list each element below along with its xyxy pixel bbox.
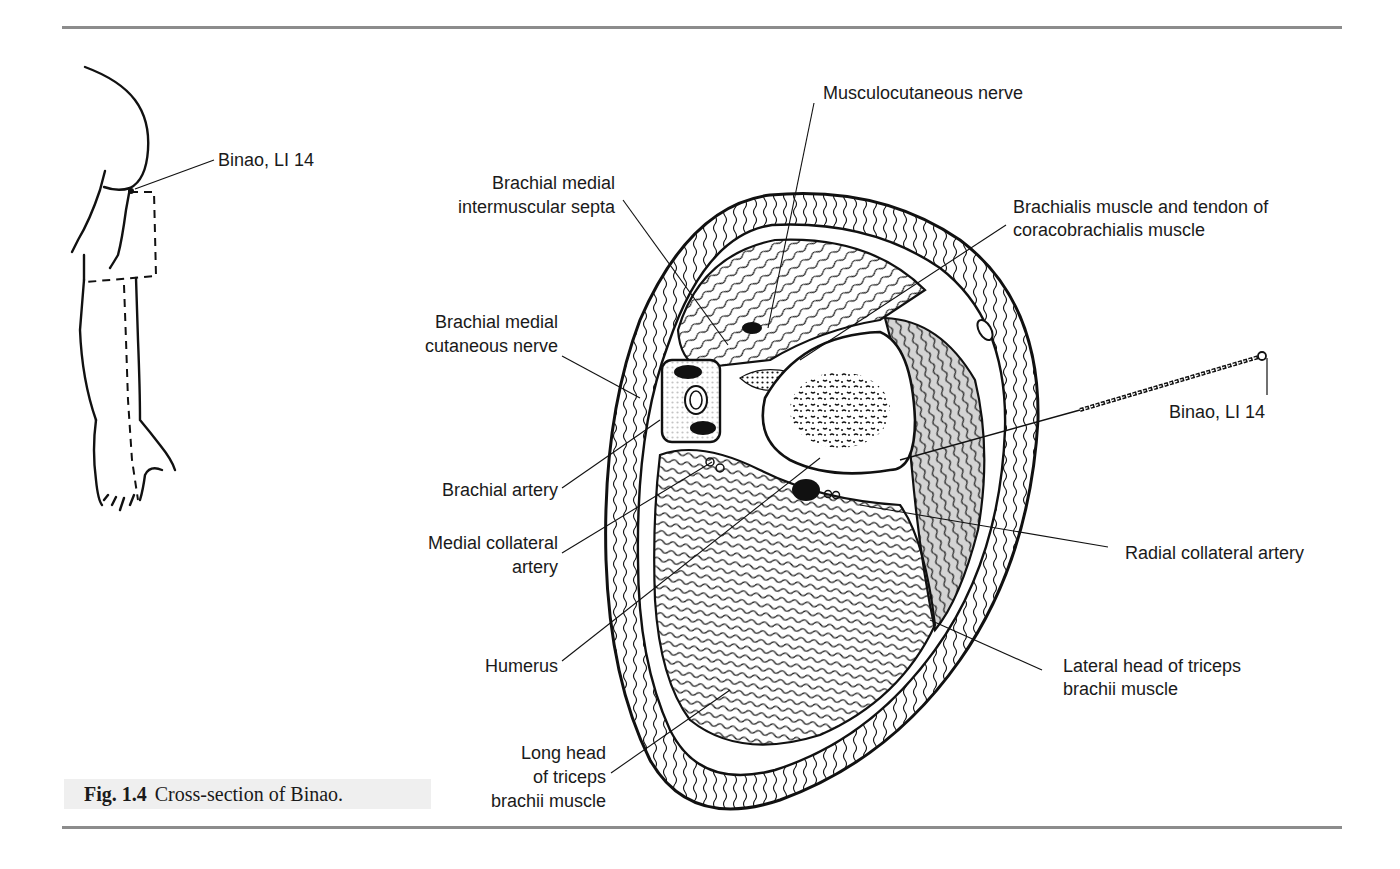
label-cutaneous-nerve-1: Brachial medial xyxy=(435,311,558,333)
label-long-head-3: brachii muscle xyxy=(491,790,606,812)
label-cutaneous-nerve-2: cutaneous nerve xyxy=(425,335,558,357)
label-medial-collateral-2: artery xyxy=(512,556,558,578)
anatomy-illustration xyxy=(0,0,1400,869)
label-brachialis-2: coracobrachialis muscle xyxy=(1013,219,1205,241)
label-needle-point: Binao, LI 14 xyxy=(1169,401,1265,423)
arm-point-label: Binao, LI 14 xyxy=(218,149,314,171)
label-brachial-artery: Brachial artery xyxy=(442,479,558,501)
figure-caption-text: Cross-section of Binao. xyxy=(155,783,343,805)
cross-section xyxy=(606,193,1038,809)
label-intermuscular-septa-1: Brachial medial xyxy=(492,172,615,194)
label-long-head-2: of triceps xyxy=(533,766,606,788)
label-intermuscular-septa-2: intermuscular septa xyxy=(458,196,615,218)
label-musculocutaneous-nerve: Musculocutaneous nerve xyxy=(823,82,1023,104)
arm-point-marker xyxy=(128,188,134,194)
label-brachialis-1: Brachialis muscle and tendon of xyxy=(1013,196,1268,218)
label-long-head-1: Long head xyxy=(521,742,606,764)
label-lateral-head-1: Lateral head of triceps xyxy=(1063,655,1241,677)
label-humerus: Humerus xyxy=(485,655,558,677)
figure-number: Fig. 1.4 xyxy=(84,783,147,805)
label-lateral-head-2: brachii muscle xyxy=(1063,678,1178,700)
label-medial-collateral-1: Medial collateral xyxy=(428,532,558,554)
label-radial-collateral-artery: Radial collateral artery xyxy=(1125,542,1304,564)
figure-caption: Fig. 1.4Cross-section of Binao. xyxy=(64,779,431,809)
